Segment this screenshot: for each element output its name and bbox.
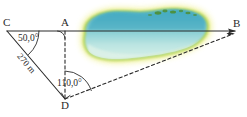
lake-shape bbox=[81, 6, 211, 63]
angle-label-c: 50,0° bbox=[18, 34, 38, 44]
figure-canvas bbox=[0, 0, 247, 117]
point-label-d: D bbox=[61, 100, 69, 111]
angle-label-d: 110,0° bbox=[57, 79, 82, 89]
right-angle-at-a bbox=[58, 31, 66, 39]
point-label-a: A bbox=[61, 17, 69, 28]
point-label-c: C bbox=[3, 17, 11, 28]
point-label-b: B bbox=[233, 18, 241, 29]
geometry-figure: C A B D 50,0° 110,0° 270 m bbox=[0, 0, 247, 117]
